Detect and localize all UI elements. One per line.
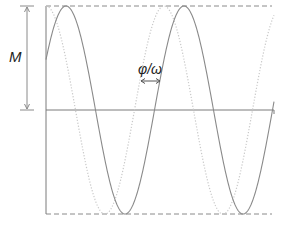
phase-shift-dimension — [141, 79, 160, 84]
amplitude-dimension — [20, 6, 34, 110]
phase-shift-label: φ/ω — [138, 61, 162, 77]
sinusoid-diagram — [0, 0, 282, 226]
amplitude-label: M — [9, 48, 22, 65]
